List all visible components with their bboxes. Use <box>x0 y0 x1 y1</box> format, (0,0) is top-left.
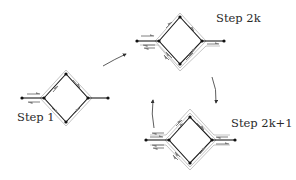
iteration-diagram <box>0 0 296 180</box>
node <box>200 39 203 42</box>
node <box>188 115 191 118</box>
node <box>86 96 89 99</box>
node <box>20 96 23 99</box>
node <box>178 15 181 18</box>
node <box>42 96 45 99</box>
node <box>106 96 109 99</box>
node <box>144 138 147 141</box>
node <box>157 39 160 42</box>
graph-edges <box>146 117 235 163</box>
node <box>178 62 181 65</box>
arrow-step1-to-step2k-icon <box>103 54 126 66</box>
node <box>233 138 236 141</box>
node <box>64 120 67 123</box>
arrow-step2k-to-step2k1-icon <box>212 77 216 103</box>
transition-arrows <box>103 54 216 128</box>
node <box>135 39 138 42</box>
panel-step2k <box>135 13 225 71</box>
panel-step2k1 <box>144 109 236 170</box>
flow-outline <box>140 13 220 71</box>
graph-edges <box>137 17 224 64</box>
node <box>167 138 170 141</box>
label-step2k1: Step 2k+1 <box>231 118 293 130</box>
node <box>188 161 191 164</box>
label-step1: Step 1 <box>17 112 55 124</box>
node <box>210 138 213 141</box>
arrow-step2k1-to-step2k-icon <box>152 100 154 128</box>
node <box>222 39 225 42</box>
label-step2k: Step 2k <box>216 13 261 25</box>
node <box>64 72 67 75</box>
flow-arrows <box>27 80 80 114</box>
